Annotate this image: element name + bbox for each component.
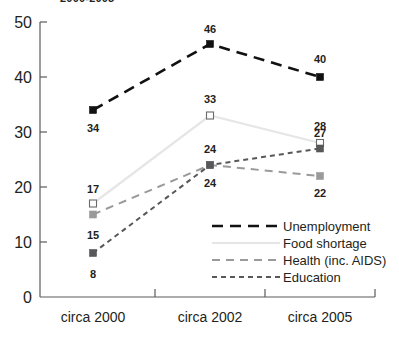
data-point-marker <box>317 173 324 180</box>
x-axis-tick-label: circa 2005 <box>288 309 353 325</box>
data-point-marker <box>317 145 324 152</box>
data-point-marker <box>90 200 97 207</box>
legend-item-label: Food shortage <box>283 236 367 251</box>
data-point-value-label: 46 <box>204 23 216 35</box>
chart-container: 2000-2005 01020304050 circa 2000circa 20… <box>0 0 399 342</box>
y-axis-tick-label: 50 <box>14 14 32 31</box>
legend-item-label: Health (inc. AIDS) <box>283 253 386 268</box>
data-point-value-label: 24 <box>204 177 217 189</box>
data-point-value-label: 17 <box>87 183 99 195</box>
data-point-marker <box>90 250 97 257</box>
legend-item-label: Education <box>283 270 341 285</box>
data-point-value-label: 33 <box>204 93 216 105</box>
data-point-value-label: 15 <box>87 229 99 241</box>
data-point-value-label: 22 <box>314 187 326 199</box>
y-axis-tick-label: 40 <box>14 69 32 86</box>
x-axis-tick-labels: circa 2000circa 2002circa 2005 <box>61 309 353 325</box>
data-point-value-label: 24 <box>204 143 217 155</box>
series-line <box>93 116 320 204</box>
y-axis-tick-label: 10 <box>14 234 32 251</box>
y-axis-tick-label: 20 <box>14 179 32 196</box>
data-point-value-label: 34 <box>87 122 100 134</box>
data-point-value-label: 40 <box>314 53 326 65</box>
x-axis-tick-label: circa 2002 <box>178 309 243 325</box>
x-axis-tick-label: circa 2000 <box>61 309 126 325</box>
data-point-marker <box>90 107 97 114</box>
y-axis-tick-label: 0 <box>23 289 32 306</box>
y-axis-tick-label: 30 <box>14 124 32 141</box>
data-point-marker <box>317 74 324 81</box>
data-point-marker <box>207 112 214 119</box>
chart-legend: UnemploymentFood shortageHealth (inc. AI… <box>212 219 386 285</box>
data-point-marker <box>207 162 214 169</box>
data-point-value-label: 8 <box>90 268 96 280</box>
data-point-marker <box>90 211 97 218</box>
y-axis-tick-labels: 01020304050 <box>14 14 32 306</box>
data-point-marker <box>207 41 214 48</box>
data-point-value-label: 27 <box>314 127 326 139</box>
series-line <box>93 165 320 215</box>
legend-item-label: Unemployment <box>283 219 371 234</box>
line-chart-plot: 01020304050 circa 2000circa 2002circa 20… <box>0 0 399 342</box>
